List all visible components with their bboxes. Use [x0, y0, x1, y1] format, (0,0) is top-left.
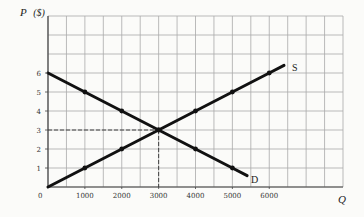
x-tick-label: 5000	[223, 192, 241, 200]
y-tick-label: 2	[37, 146, 41, 154]
x-tick-label: 1000	[76, 192, 94, 200]
y-tick-label: 1	[37, 165, 41, 173]
origin-label: 0	[38, 192, 42, 200]
y-axis-label: P ($)	[19, 6, 46, 19]
y-axis-symbol: P	[19, 6, 27, 18]
supply-point	[230, 90, 235, 95]
supply-point	[82, 166, 87, 171]
chart-curves	[48, 65, 284, 187]
y-axis-unit: ($)	[33, 7, 45, 19]
y-tick-label: 6	[37, 70, 42, 78]
demand-point	[193, 147, 198, 152]
demand-curve	[48, 73, 247, 176]
chart-grid	[48, 16, 343, 187]
supply-curve-label: S	[292, 62, 298, 73]
y-tick-label: 3	[37, 127, 41, 135]
x-tick-label: 6000	[260, 192, 278, 200]
x-tick-label: 4000	[187, 192, 205, 200]
x-axis-label: Q	[338, 193, 346, 205]
supply-point	[119, 147, 124, 152]
demand-curve-label: D	[251, 174, 258, 185]
demand-point	[82, 90, 87, 95]
x-tick-label: 2000	[113, 192, 131, 200]
supply-point	[267, 71, 272, 76]
y-tick-label: 5	[37, 89, 41, 97]
tick-labels: 100020003000400050006000123456	[37, 70, 279, 201]
y-tick-label: 4	[37, 108, 42, 116]
demand-point	[119, 109, 124, 114]
demand-point	[156, 128, 161, 133]
x-tick-label: 3000	[150, 192, 168, 200]
supply-demand-chart: 100020003000400050006000123456 P ($) Q 0…	[0, 0, 364, 217]
supply-point	[193, 109, 198, 114]
demand-point	[230, 166, 235, 171]
